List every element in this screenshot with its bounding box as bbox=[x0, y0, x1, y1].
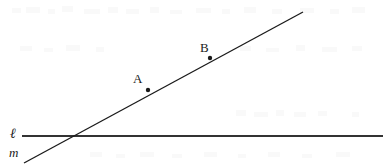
figure-canvas bbox=[0, 0, 391, 168]
point-a-dot bbox=[146, 88, 150, 92]
geometry-figure: A B ℓ m bbox=[0, 0, 391, 168]
line-m bbox=[24, 12, 303, 163]
point-b-dot bbox=[208, 56, 212, 60]
scan-artifacts bbox=[12, 6, 365, 158]
point-a-label: A bbox=[133, 72, 142, 85]
point-b-label: B bbox=[200, 41, 209, 54]
line-m-label: m bbox=[9, 146, 18, 159]
line-l-label: ℓ bbox=[10, 127, 16, 141]
